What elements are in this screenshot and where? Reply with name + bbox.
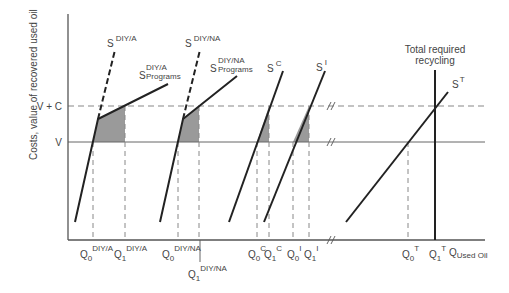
svg-text:Q1DIY/A: Q1DIY/A	[114, 244, 148, 263]
svg-text:SC: SC	[267, 59, 282, 74]
total-required-label-1: Total required	[405, 44, 466, 55]
curve-labels: SDIY/A S DIY/A Programs SDIY/NA S DIY/NA…	[107, 34, 465, 90]
svg-text:DIY/A: DIY/A	[146, 63, 168, 72]
svg-text:Programs: Programs	[218, 65, 253, 74]
projection-lines	[93, 106, 408, 240]
svg-text:SDIY/A: SDIY/A	[107, 34, 137, 49]
x-axis-label: QUsed Oil	[449, 247, 488, 260]
svg-text:SDIY/NA: SDIY/NA	[185, 34, 221, 49]
svg-text:Q0T: Q0T	[402, 244, 419, 263]
svg-text:DIY/NA: DIY/NA	[218, 56, 245, 65]
s-i	[264, 71, 325, 222]
s-diy-a-programs	[75, 84, 168, 222]
s-t	[346, 92, 448, 222]
shade-i	[293, 106, 309, 142]
s-diy-a-dashed	[98, 50, 115, 119]
recycling-diagram: Costs, value of recovered used oil V + C…	[0, 0, 509, 293]
supply-curves	[75, 50, 448, 240]
svg-text:Q1I: Q1I	[304, 244, 318, 263]
y-axis-label: Costs, value of recovered used oil	[28, 9, 39, 160]
svg-text:Q1C: Q1C	[264, 244, 282, 263]
svg-text:Q1T: Q1T	[429, 244, 446, 263]
s-c	[229, 71, 283, 222]
y-tick-v: V	[55, 137, 62, 148]
svg-text:Q0DIY/A: Q0DIY/A	[80, 244, 114, 263]
svg-text:S: S	[139, 70, 146, 81]
svg-text:Programs: Programs	[146, 72, 181, 81]
svg-text:SI: SI	[316, 58, 327, 73]
axis-break-marks	[327, 102, 335, 244]
svg-text:Q0I: Q0I	[287, 244, 301, 263]
x-tick-labels: Q0DIY/A Q1DIY/A Q0DIY/NA Q1DIY/NA Q0C Q1…	[80, 244, 488, 283]
svg-text:Q1DIY/NA: Q1DIY/NA	[188, 264, 228, 283]
y-tick-v-plus-c: V + C	[37, 101, 62, 112]
svg-text:ST: ST	[452, 75, 465, 90]
total-required-label-2: recycling	[415, 55, 454, 66]
svg-text:Q0DIY/NA: Q0DIY/NA	[162, 244, 202, 263]
svg-text:S: S	[210, 63, 217, 74]
